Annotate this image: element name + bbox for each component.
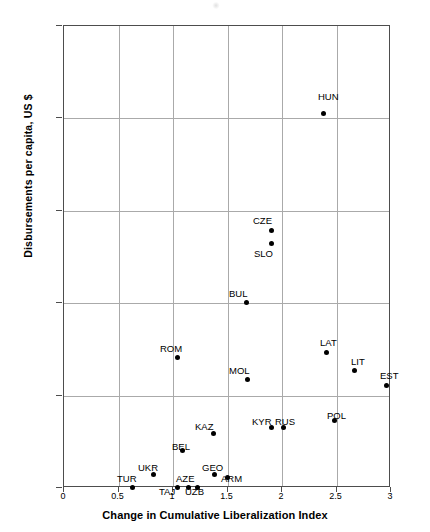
- x-tick-mark: [118, 487, 119, 492]
- data-label-uzb: UZB: [185, 487, 204, 497]
- data-label-est: EST: [380, 371, 398, 381]
- data-label-mol: MOL: [229, 366, 250, 376]
- x-tick-mark: [390, 487, 391, 492]
- y-tick-mark: [56, 395, 62, 396]
- x-tick-mark: [281, 487, 282, 492]
- data-label-arm: ARM: [221, 474, 242, 484]
- data-label-tur: TUR: [117, 474, 137, 484]
- data-point-tur: [130, 485, 135, 490]
- data-point-slo: [269, 241, 274, 246]
- gridline-horizontal: [64, 396, 389, 397]
- artifact-speck: [212, 2, 220, 9]
- x-tick-mark: [336, 487, 337, 492]
- y-tick-mark: [56, 25, 62, 26]
- x-tick-label: 2.5: [321, 492, 351, 501]
- gridline-horizontal: [64, 211, 389, 212]
- y-tick-mark: [56, 117, 62, 118]
- data-label-taj: TAJ: [159, 487, 175, 497]
- data-label-kyr: KYR: [252, 417, 272, 427]
- gridline-horizontal: [64, 118, 389, 119]
- x-tick-label: 2: [266, 492, 296, 501]
- x-tick-label: 1.5: [212, 492, 242, 501]
- x-tick-label: 0: [48, 492, 78, 501]
- x-tick-label: 0.5: [103, 492, 133, 501]
- gridline-horizontal: [64, 303, 389, 304]
- data-label-ukr: UKR: [138, 463, 158, 473]
- data-point-lat: [324, 350, 329, 355]
- y-tick-mark: [56, 487, 62, 488]
- gridline-vertical: [119, 26, 120, 486]
- gridline-vertical: [173, 26, 174, 486]
- y-axis-title: Disbursements per capita, US $: [22, 56, 34, 296]
- data-point-cze: [269, 228, 274, 233]
- data-label-rom: ROM: [160, 344, 182, 354]
- data-label-pol: POL: [327, 411, 346, 421]
- data-label-aze: AZE: [176, 474, 194, 484]
- data-label-cze: CZE: [253, 216, 272, 226]
- data-point-bul: [244, 300, 249, 305]
- x-tick-label: 3: [375, 492, 405, 501]
- y-tick-mark: [56, 210, 62, 211]
- scatter-chart: Disbursements per capita, US $ 050100150…: [0, 0, 430, 532]
- data-label-hun: HUN: [318, 92, 339, 102]
- gridline-vertical: [228, 26, 229, 486]
- data-label-lat: LAT: [320, 338, 337, 348]
- data-label-bel: BEL: [172, 442, 190, 452]
- x-tick-mark: [63, 487, 64, 492]
- data-label-lit: LIT: [351, 357, 365, 367]
- data-label-geo: GEO: [202, 463, 223, 473]
- data-label-slo: SLO: [254, 249, 273, 259]
- data-point-lit: [352, 368, 357, 373]
- x-axis-title: Change in Cumulative Liberalization Inde…: [0, 509, 430, 521]
- data-label-bul: BUL: [229, 289, 247, 299]
- data-point-taj: [175, 485, 180, 490]
- y-tick-mark: [56, 302, 62, 303]
- x-tick-mark: [227, 487, 228, 492]
- data-label-kaz: KAZ: [195, 422, 213, 432]
- data-label-rus: RUS: [275, 417, 295, 427]
